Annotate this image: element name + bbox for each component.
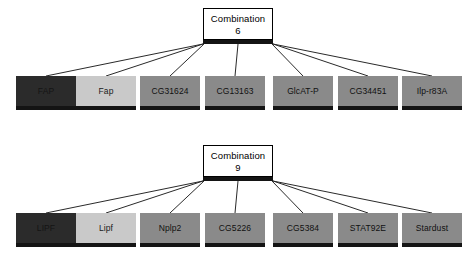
connector-line [272, 181, 303, 213]
connector-line [106, 44, 203, 76]
gene-node[interactable]: CG5384 [273, 213, 333, 247]
connector-line [46, 181, 203, 213]
connector-line [106, 181, 203, 213]
gene-node-label: Nplp2 [159, 223, 182, 233]
gene-node-label: CG34451 [349, 86, 386, 96]
gene-node[interactable]: CG31624 [140, 76, 200, 110]
gene-node-shadow [402, 243, 462, 247]
gene-node-shadow [338, 106, 398, 110]
combination-box[interactable]: Combination9 [203, 145, 273, 177]
connector-line [235, 44, 238, 76]
gene-node-shadow [205, 243, 265, 247]
gene-node[interactable]: LIPF [16, 213, 76, 247]
gene-node-shadow [140, 243, 200, 247]
connector-line [273, 44, 368, 76]
connector-line [235, 181, 238, 213]
connector-line [273, 44, 432, 76]
gene-node[interactable]: STAT92E [338, 213, 398, 247]
gene-node-label: CG5384 [287, 223, 319, 233]
gene-node[interactable]: FAP [16, 76, 76, 110]
gene-node-shadow [273, 106, 333, 110]
gene-node-shadow [16, 243, 76, 247]
combination-bar [203, 177, 273, 181]
combination-label: Combination [204, 150, 272, 162]
combination-box[interactable]: Combination6 [203, 8, 273, 40]
connector-line [170, 44, 204, 76]
hierarchy-diagram: Combination6FAPFapCG31624CG13163GlcAT-PC… [0, 0, 470, 263]
gene-node[interactable]: Lipf [76, 213, 136, 247]
gene-node-label: GlcAT-P [287, 86, 319, 96]
gene-node-shadow [16, 106, 76, 110]
gene-node-shadow [76, 106, 136, 110]
gene-node-shadow [273, 243, 333, 247]
gene-node-label: CG5226 [219, 223, 251, 233]
connector-line [170, 181, 204, 213]
gene-node[interactable]: CG34451 [338, 76, 398, 110]
gene-node[interactable]: CG13163 [205, 76, 265, 110]
connector-line [273, 181, 432, 213]
gene-node-label: Stardust [416, 223, 448, 233]
gene-node[interactable]: Fap [76, 76, 136, 110]
gene-node-shadow [402, 106, 462, 110]
gene-node[interactable]: CG5226 [205, 213, 265, 247]
connector-line [272, 44, 303, 76]
gene-node-label: CG31624 [151, 86, 188, 96]
gene-node[interactable]: GlcAT-P [273, 76, 333, 110]
gene-node[interactable]: Stardust [402, 213, 462, 247]
connector-line [46, 44, 203, 76]
gene-node-label: LIPF [37, 223, 55, 233]
combination-bar [203, 40, 273, 44]
gene-node-label: CG13163 [216, 86, 253, 96]
gene-node-label: STAT92E [350, 223, 386, 233]
gene-node-shadow [140, 106, 200, 110]
combination-number: 6 [204, 25, 272, 37]
gene-node[interactable]: Ilp-r83A [402, 76, 462, 110]
gene-node-label: FAP [38, 86, 54, 96]
gene-node[interactable]: Nplp2 [140, 213, 200, 247]
combination-label: Combination [204, 13, 272, 25]
gene-node-label: Lipf [99, 223, 113, 233]
gene-node-label: Fap [99, 86, 114, 96]
gene-node-shadow [338, 243, 398, 247]
gene-node-label: Ilp-r83A [417, 86, 448, 96]
connector-line [273, 181, 368, 213]
gene-node-shadow [76, 243, 136, 247]
combination-number: 9 [204, 162, 272, 174]
gene-node-shadow [205, 106, 265, 110]
